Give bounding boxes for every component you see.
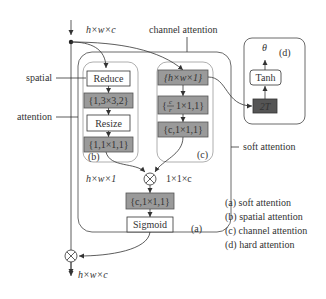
theta-output: θ [262, 42, 267, 53]
channel-branch-label: (c) [197, 149, 208, 161]
soft-attention-callout: soft attention [243, 141, 296, 152]
hard-node-tanh: Tanh [250, 70, 281, 85]
soft-node-sigmoid: Sigmoid [127, 217, 173, 232]
spatial-node-reduce: Reduce [87, 71, 130, 86]
channel-output-dim: 1×1×c [166, 173, 192, 184]
svg-text:{1,1×1,1}: {1,1×1,1} [88, 139, 128, 150]
to-spatial-arrow [71, 42, 106, 68]
legend-item: (c) channel attention [225, 225, 307, 237]
spatial-callout: spatial [26, 72, 52, 83]
soft-block-label: (a) [191, 223, 202, 235]
legend: (a) soft attention (b) spatial attention… [225, 197, 307, 251]
multiply-node [144, 173, 156, 185]
sigmoid-to-output [79, 232, 150, 256]
attention-callout: attention [17, 111, 52, 122]
svg-text:Reduce: Reduce [94, 73, 125, 84]
output-multiply-node [65, 250, 77, 262]
svg-text:{h×w×1}: {h×w×1} [164, 72, 202, 83]
svg-text:Sigmoid: Sigmoid [133, 219, 167, 230]
spatial-node-conv: {1,3×3,2} [84, 93, 133, 108]
channel-node-reduce: { c r 1×1,1} [158, 96, 208, 114]
spatial-node-conv2: {1,1×1,1} [84, 137, 133, 152]
attention-diagram: h×w×c channel attention spatial attentio… [0, 0, 326, 299]
svg-text:{1,3×3,2}: {1,3×3,2} [88, 95, 128, 106]
spatial-node-resize: Resize [87, 115, 130, 131]
frac-rest: 1×1,1} [176, 100, 204, 111]
svg-text:Tanh: Tanh [256, 72, 276, 83]
channel-node-pool: {h×w×1} [158, 70, 208, 85]
channel-attention-callout: channel attention [149, 24, 218, 35]
svg-text:2T: 2T [260, 101, 272, 112]
frac-den: r [169, 106, 172, 114]
legend-item: (d) hard attention [225, 239, 294, 251]
input-dim-label: h×w×c [86, 24, 116, 35]
hard-node-2t: 2T [253, 99, 277, 113]
output-dim-label: h×w×c [78, 269, 108, 280]
legend-item: (a) soft attention [225, 197, 291, 209]
channel-to-merge [155, 137, 183, 172]
hard-block-label: (d) [279, 47, 291, 59]
channel-node-expand: {c,1×1,1} [158, 122, 208, 137]
svg-text:{c,1×1,1}: {c,1×1,1} [130, 196, 170, 207]
open-brace: { [162, 100, 167, 111]
svg-text:{c,1×1,1}: {c,1×1,1} [163, 124, 203, 135]
to-channel-arrow [71, 42, 183, 70]
channel-to-hard-arrow [208, 77, 252, 106]
soft-node-conv: {c,1×1,1} [126, 193, 174, 209]
legend-item: (b) spatial attention [225, 211, 303, 223]
spatial-branch-label: (b) [88, 151, 100, 163]
svg-text:Resize: Resize [95, 118, 122, 129]
spatial-output-dim: h×w×1 [86, 173, 116, 184]
